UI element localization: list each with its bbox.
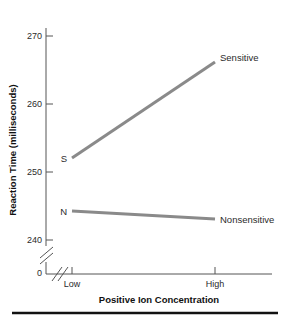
y-tick-label-240: 240 (27, 235, 42, 245)
x-tick-label-low: Low (64, 279, 81, 289)
series-line-sensitive (72, 62, 215, 158)
y-axis-origin-label: 0 (37, 268, 42, 278)
y-tick-label-270: 270 (27, 31, 42, 41)
line-chart: 270 260 250 240 0 Low High S N Sensitive… (0, 0, 291, 319)
series-label-nonsensitive: Nonsensitive (220, 214, 274, 225)
series-label-sensitive: Sensitive (220, 52, 259, 63)
y-tick-label-250: 250 (27, 167, 42, 177)
y-axis-title: Reaction Time (milliseconds) (7, 84, 18, 215)
series-line-nonsensitive (72, 211, 215, 219)
x-axis-title: Positive Ion Concentration (99, 294, 220, 305)
y-tick-label-260: 260 (27, 99, 42, 109)
point-label-nonsensitive: N (60, 206, 67, 217)
point-label-sensitive: S (61, 153, 67, 164)
chart-figure: 270 260 250 240 0 Low High S N Sensitive… (0, 0, 291, 319)
y-axis-break-slash-1 (40, 247, 53, 258)
x-tick-label-high: High (206, 279, 225, 289)
